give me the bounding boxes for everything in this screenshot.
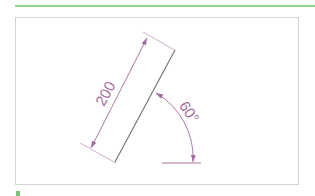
inclined-member-line xyxy=(115,50,175,162)
extension-line-top xyxy=(143,32,176,51)
extension-line-bottom xyxy=(80,143,116,163)
angle-dimension-label: 60° xyxy=(176,98,203,126)
length-dimension-label: 200 xyxy=(92,78,119,108)
corner-marker xyxy=(16,191,20,196)
technical-drawing: 200 60° xyxy=(0,0,315,196)
